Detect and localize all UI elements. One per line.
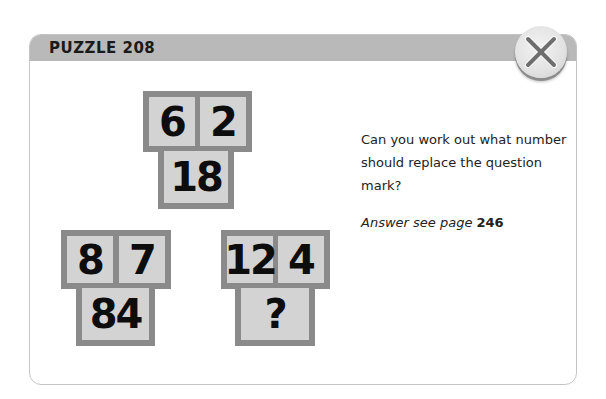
tile-group-2-bottom: 84 — [76, 288, 155, 346]
answer-reference: Answer see page 246 — [361, 215, 504, 230]
tile-cell: 18 — [164, 151, 228, 203]
tile-cell: 4 — [278, 236, 324, 283]
question-mark-cell: ? — [241, 288, 309, 340]
tile-group-1-top: 6 2 — [143, 91, 252, 152]
tile-cell: 6 — [149, 97, 195, 146]
tile-group-3-top: 12 4 — [221, 230, 330, 289]
tile-group-3-bottom: ? — [235, 288, 315, 346]
tile-group-1-bottom: 18 — [158, 151, 234, 209]
answer-prefix: Answer see page — [361, 215, 472, 230]
puzzle-title: PUZZLE 208 — [49, 39, 155, 57]
question-text: Can you work out what number should repl… — [361, 128, 571, 197]
tile-cell: 2 — [200, 97, 246, 146]
close-icon — [523, 34, 559, 70]
tile-cell: 7 — [119, 236, 165, 283]
puzzle-header: PUZZLE 208 — [30, 35, 576, 61]
answer-page-number: 246 — [477, 215, 504, 230]
tile-cell: 84 — [82, 288, 149, 340]
tile-group-2-top: 8 7 — [61, 230, 171, 289]
tile-cell: 12 — [227, 236, 273, 283]
close-button[interactable] — [515, 26, 567, 78]
tile-cell: 8 — [67, 236, 113, 283]
